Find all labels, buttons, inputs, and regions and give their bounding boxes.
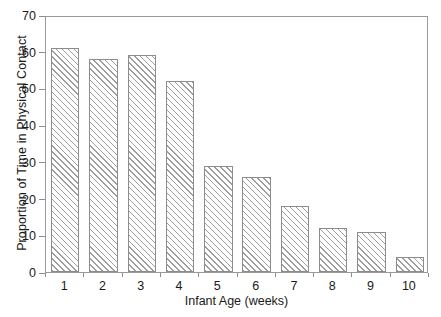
x-axis-tick (351, 273, 352, 277)
bar (166, 81, 194, 272)
y-axis-tick (39, 236, 45, 237)
bar (396, 257, 424, 272)
x-axis-tick (122, 273, 123, 277)
bar (128, 55, 156, 272)
bar (204, 166, 232, 272)
y-axis-tick-label: 0 (4, 267, 36, 279)
x-axis-tick-label: 6 (252, 279, 259, 293)
x-axis-tick-label: 9 (367, 279, 374, 293)
x-axis-tick (160, 273, 161, 277)
bar (89, 59, 117, 272)
x-axis-tick-label: 10 (402, 279, 416, 293)
y-axis-tick (39, 162, 45, 163)
x-axis-tick (45, 273, 46, 277)
x-axis-tick-label: 8 (329, 279, 336, 293)
y-axis-tick (39, 273, 45, 274)
x-axis-tick (428, 273, 429, 277)
y-axis-labels: 010203040506070 (0, 0, 36, 317)
x-axis-tick (275, 273, 276, 277)
y-axis-tick (39, 126, 45, 127)
y-axis-tick-label: 10 (4, 230, 36, 242)
bar (319, 228, 347, 272)
x-axis-tick-label: 7 (290, 279, 297, 293)
x-axis-tick-label: 2 (99, 279, 106, 293)
x-axis-tick (390, 273, 391, 277)
bar (51, 48, 79, 272)
x-axis-tick-label: 4 (176, 279, 183, 293)
y-axis-tick-label: 50 (4, 83, 36, 95)
bar (357, 232, 385, 272)
x-axis-tick-label: 1 (61, 279, 68, 293)
y-axis-tick (39, 16, 45, 17)
y-axis-tick-label: 60 (4, 47, 36, 59)
y-axis-tick-label: 40 (4, 120, 36, 132)
x-axis-tick (83, 273, 84, 277)
plot-frame (45, 16, 428, 273)
bar (242, 177, 270, 272)
y-axis-tick (39, 199, 45, 200)
y-axis-tick-label: 30 (4, 157, 36, 169)
x-axis-tick (237, 273, 238, 277)
x-axis-tick-label: 5 (214, 279, 221, 293)
plot-area (46, 17, 427, 272)
y-axis-tick-label: 70 (4, 10, 36, 22)
x-axis-tick (198, 273, 199, 277)
y-axis-tick-label: 20 (4, 194, 36, 206)
bar-chart: Proportion of Time in Physical Contact 0… (0, 0, 441, 317)
x-axis-tick (313, 273, 314, 277)
y-axis-tick (39, 52, 45, 53)
x-axis-title: Infant Age (weeks) (45, 294, 428, 308)
y-axis-tick (39, 89, 45, 90)
bar (281, 206, 309, 272)
x-axis-tick-label: 3 (137, 279, 144, 293)
